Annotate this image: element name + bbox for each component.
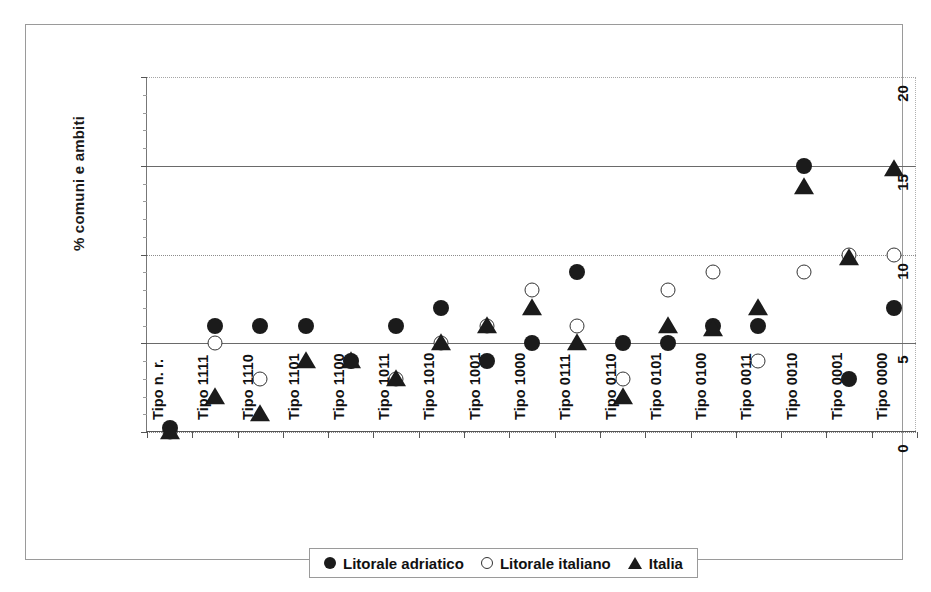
data-point-filled-circle (298, 318, 314, 334)
x-axis-label-tipo-0011: Tipo 0011 (738, 353, 754, 420)
data-point-triangle (794, 177, 814, 194)
legend-label: Italia (649, 555, 683, 572)
x-axis-label-tipo-1110: Tipo 1110 (240, 354, 256, 420)
x-tick-mark (373, 432, 374, 438)
y-minor-tick (143, 290, 147, 291)
y-minor-tick (143, 201, 147, 202)
x-axis-label-tipo-n-r: Tipo n. r. (150, 359, 166, 420)
gridline-20 (147, 77, 916, 78)
y-tick-label-0: 0 (894, 432, 911, 466)
data-point-triangle (522, 298, 542, 315)
chart-outer-frame: % comuni e ambiti 05101520 Tipo n. r.Tip… (25, 24, 903, 560)
data-point-open-circle (570, 318, 585, 333)
y-minor-tick (143, 237, 147, 238)
x-tick-mark (781, 432, 782, 438)
data-point-filled-circle (750, 318, 766, 334)
data-point-triangle (567, 333, 587, 350)
y-tick-mark-5 (141, 343, 147, 344)
data-point-filled-circle (796, 158, 812, 174)
gridline-0 (147, 432, 916, 433)
data-point-triangle (703, 319, 723, 336)
gridline-10 (147, 255, 916, 256)
x-tick-mark (192, 432, 193, 438)
y-tick-mark-10 (141, 255, 147, 256)
y-minor-tick (143, 219, 147, 220)
legend-marker-filled-circle-icon (324, 557, 336, 569)
data-point-open-circle (525, 283, 540, 298)
data-point-open-circle (207, 336, 222, 351)
data-point-filled-circle (660, 335, 676, 351)
plot-inner: 05101520 (147, 77, 916, 431)
data-point-filled-circle (886, 300, 902, 316)
x-tick-mark (691, 432, 692, 438)
x-axis-label-tipo-1111: Tipo 1111 (195, 355, 211, 420)
x-tick-mark (645, 432, 646, 438)
data-point-triangle (748, 298, 768, 315)
x-axis-label-tipo-1000: Tipo 1000 (512, 352, 528, 420)
data-point-filled-circle (207, 318, 223, 334)
data-point-filled-circle (524, 335, 540, 351)
x-axis-label-tipo-0100: Tipo 0100 (693, 352, 709, 420)
x-axis-label-tipo-0000: Tipo 0000 (874, 352, 890, 420)
data-point-triangle (884, 159, 904, 176)
x-tick-mark (509, 432, 510, 438)
y-minor-tick (143, 308, 147, 309)
x-tick-mark (147, 432, 148, 438)
y-tick-label-20: 20 (894, 77, 911, 111)
y-minor-tick (143, 379, 147, 380)
legend-label: Litorale adriatico (343, 555, 464, 572)
x-axis-label-tipo-0111: Tipo 0111 (557, 354, 573, 420)
data-point-filled-circle (433, 300, 449, 316)
y-minor-tick (143, 113, 147, 114)
data-point-open-circle (887, 247, 902, 262)
x-tick-mark (826, 432, 827, 438)
data-point-triangle (839, 248, 859, 265)
data-point-triangle (477, 316, 497, 333)
y-minor-tick (143, 326, 147, 327)
plot-area: 05101520 (146, 77, 916, 432)
legend-entry-italia[interactable]: Italia (628, 555, 683, 572)
y-minor-tick (143, 95, 147, 96)
data-point-open-circle (796, 265, 811, 280)
x-tick-mark (419, 432, 420, 438)
y-tick-label-5: 5 (894, 343, 911, 377)
y-minor-tick (143, 272, 147, 273)
data-point-filled-circle (615, 335, 631, 351)
x-axis-label-tipo-0101: Tipo 0101 (648, 352, 664, 420)
x-axis-label-tipo-0001: Tipo 0001 (829, 352, 845, 420)
x-tick-mark (283, 432, 284, 438)
x-axis-label-tipo-0110: Tipo 0110 (603, 353, 619, 420)
x-tick-mark (464, 432, 465, 438)
x-axis-label-tipo-1001: Tipo 1001 (467, 352, 483, 420)
legend-label: Litorale italiano (500, 555, 611, 572)
y-minor-tick (143, 130, 147, 131)
y-minor-tick (143, 397, 147, 398)
y-minor-tick (143, 414, 147, 415)
x-tick-mark (917, 432, 918, 438)
y-tick-mark-20 (141, 77, 147, 78)
legend-entry-litorale-adriatico[interactable]: Litorale adriatico (324, 555, 464, 572)
x-tick-mark (238, 432, 239, 438)
x-tick-mark (555, 432, 556, 438)
y-minor-tick (143, 361, 147, 362)
legend-entry-litorale-italiano[interactable]: Litorale italiano (481, 555, 611, 572)
data-point-triangle (160, 422, 180, 439)
x-tick-mark (600, 432, 601, 438)
x-axis-label-tipo-0010: Tipo 0010 (784, 352, 800, 420)
data-point-open-circle (706, 265, 721, 280)
chart-legend: Litorale adriaticoLitorale italianoItali… (309, 548, 698, 578)
data-point-filled-circle (388, 318, 404, 334)
x-axis-label-tipo-1010: Tipo 1010 (421, 352, 437, 420)
y-minor-tick (143, 148, 147, 149)
data-point-open-circle (660, 283, 675, 298)
x-tick-mark (328, 432, 329, 438)
y-minor-tick (143, 184, 147, 185)
y-axis-title: % comuni e ambiti (70, 84, 87, 284)
x-tick-mark (872, 432, 873, 438)
x-axis-label-tipo-1101: Tipo 1101 (286, 353, 302, 420)
x-axis-label-tipo-1100: Tipo 1100 (331, 353, 347, 420)
x-axis-label-tipo-1011: Tipo 1011 (376, 353, 392, 420)
y-tick-mark-15 (141, 166, 147, 167)
data-point-triangle (431, 333, 451, 350)
data-point-filled-circle (569, 264, 585, 280)
